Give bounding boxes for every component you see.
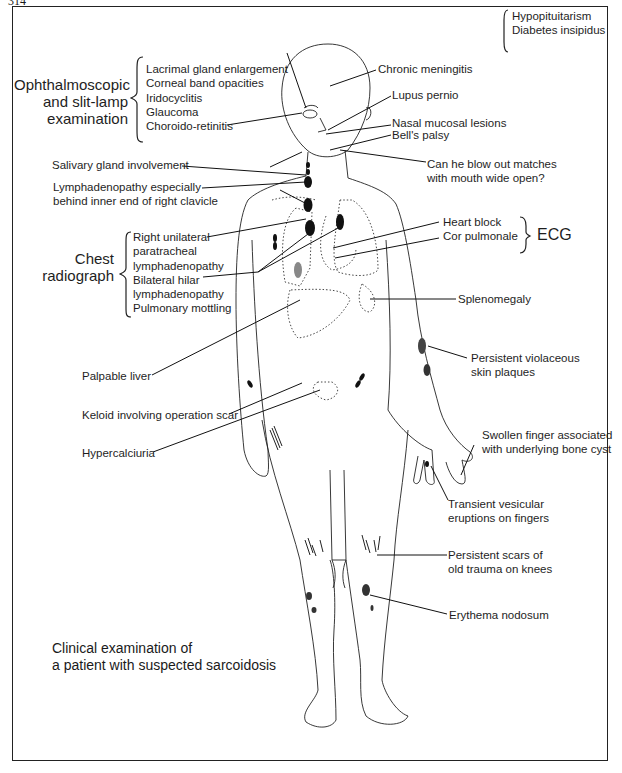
label-corneal: Corneal band opacities (146, 76, 288, 90)
label-line: old trauma on knees (448, 562, 552, 576)
spleen-outline (359, 284, 374, 312)
group-title-line: Ophthalmoscopic (14, 76, 128, 93)
ophthalmoscopic-items: Lacrimal gland enlargement Corneal band … (146, 62, 288, 133)
label-swollen-finger: Swollen finger associated with underlyin… (482, 428, 612, 456)
label-chronic-meningitis: Chronic meningitis (378, 62, 473, 76)
label-choroido-retinitis: Choroido-retinitis (146, 119, 288, 133)
label-palpable-liver: Palpable liver (82, 369, 151, 383)
label-diabetes-insipidus: Diabetes insipidus (512, 23, 605, 37)
group-title-line: examination (14, 110, 128, 127)
label-line: Lymphadenopathy especially (53, 180, 218, 194)
label-salivary: Salivary gland involvement (52, 158, 189, 172)
label-line: Transient vesicular (448, 497, 549, 511)
figure-caption: Clinical examination of a patient with s… (52, 640, 276, 674)
label-knee-scars: Persistent scars of old trauma on knees (448, 548, 552, 576)
group-title-line: and slit-lamp (14, 93, 128, 110)
label-line: Can he blow out matches (427, 157, 557, 171)
label-lymphadenopathy-1: lymphadenopathy (133, 259, 231, 273)
label-line: eruptions on fingers (448, 511, 549, 525)
lesions (246, 162, 430, 613)
label-lacrimal: Lacrimal gland enlargement (146, 62, 288, 76)
label-line: behind inner end of right clavicle (53, 194, 218, 208)
ecg-title: ECG (537, 226, 572, 243)
label-violaceous-plaques: Persistent violaceous skin plaques (471, 351, 580, 379)
label-splenomegaly: Splenomegaly (458, 292, 531, 306)
label-line: with mouth wide open? (427, 171, 557, 185)
ecg-items: Heart block Cor pulmonale (443, 215, 518, 244)
chest-radiograph-title: Chest radiograph (40, 250, 114, 284)
chest-radiograph-items: Right unilateral paratracheal lymphadeno… (133, 230, 231, 316)
label-cor-pulmonale: Cor pulmonale (443, 229, 518, 243)
pituitary-items: Hypopituitarism Diabetes insipidus (512, 9, 605, 38)
head-outline (282, 44, 370, 157)
label-line: with underlying bone cyst (482, 442, 612, 456)
label-iridocyclitis: Iridocyclitis (146, 91, 288, 105)
knee-scars (270, 426, 380, 556)
ophthalmic-brace (131, 57, 143, 142)
group-title-line: Chest (40, 250, 114, 267)
ophthalmoscopic-group-title: Ophthalmoscopic and slit-lamp examinatio… (14, 76, 128, 127)
pituitary-brace (504, 10, 508, 52)
caption-line: Clinical examination of (52, 640, 276, 657)
label-line: Persistent violaceous (471, 351, 580, 365)
label-bells-palsy: Bell's palsy (392, 128, 449, 142)
label-heart-block: Heart block (443, 215, 518, 229)
label-blow-matches: Can he blow out matches with mouth wide … (427, 157, 557, 185)
caption-line: a patient with suspected sarcoidosis (52, 657, 276, 674)
chest-brace (120, 232, 131, 317)
label-pulmonary-mottling: Pulmonary mottling (133, 301, 231, 315)
label-bilateral-hilar: Bilateral hilar (133, 273, 231, 287)
label-glaucoma: Glaucoma (146, 105, 288, 119)
group-title-line: radiograph (40, 267, 114, 284)
label-vesicular: Transient vesicular eruptions on fingers (448, 497, 549, 525)
label-erythema-nodosum: Erythema nodosum (449, 608, 549, 622)
label-lupus-pernio: Lupus pernio (392, 88, 459, 102)
label-keloid: Keloid involving operation scar (82, 408, 238, 422)
eye-icon (303, 110, 317, 118)
torso-outline (236, 176, 306, 450)
label-line: Swollen finger associated (482, 428, 612, 442)
liver-outline (288, 289, 350, 338)
label-right-unilateral: Right unilateral (133, 230, 231, 244)
label-hypopituitarism: Hypopituitarism (512, 9, 605, 23)
label-paratracheal: paratracheal (133, 244, 231, 258)
label-line: skin plaques (471, 365, 580, 379)
label-lymphadenopathy-2: lymphadenopathy (133, 287, 231, 301)
left-lung-outline (334, 200, 378, 276)
label-hypercalciuria: Hypercalciuria (82, 446, 155, 460)
label-line: Persistent scars of (448, 548, 552, 562)
ecg-brace (520, 217, 530, 253)
label-lymphadenopathy: Lymphadenopathy especially behind inner … (53, 180, 218, 208)
pulmonary-mottling (294, 262, 302, 278)
